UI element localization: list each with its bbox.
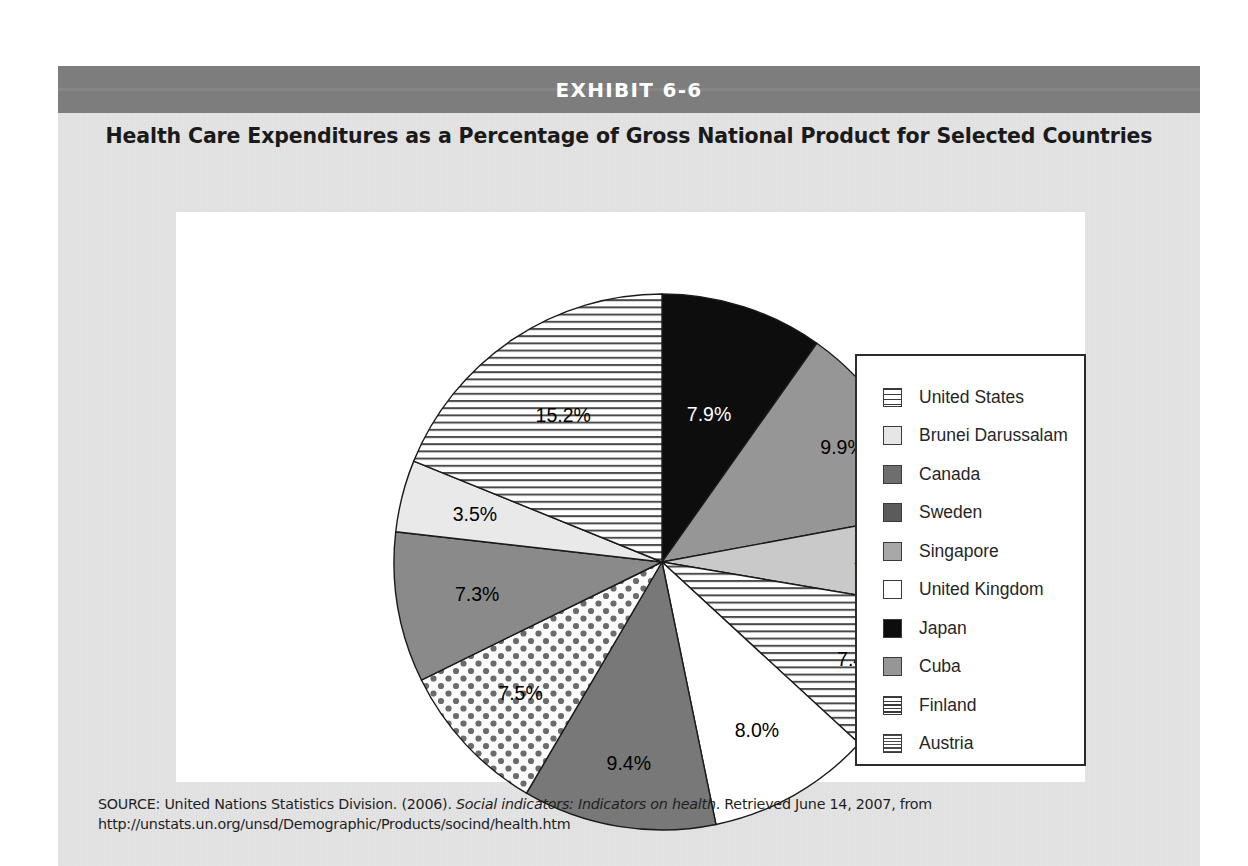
legend-item[interactable]: Cuba [883, 648, 1088, 687]
pie-slice-value-label: 15.2% [536, 404, 591, 426]
legend-item[interactable]: Singapore [883, 532, 1088, 571]
legend-label: Austria [919, 733, 973, 754]
pie-chart: 7.9%9.9%4.5%7.4%8.0%9.4%7.5%7.3%3.5%15.2… [392, 292, 932, 832]
legend-item[interactable]: Austria [883, 725, 1088, 764]
legend-item[interactable]: Brunei Darussalam [883, 417, 1088, 456]
legend-item-list: United StatesBrunei DarussalamCanadaSwed… [883, 378, 1088, 763]
source-italic-title: Social indicators: Indicators on health [456, 796, 716, 812]
source-note: SOURCE: United Nations Statistics Divisi… [98, 794, 1168, 835]
legend-swatch-icon [883, 542, 902, 561]
pie-slice-value-label: 7.5% [498, 682, 542, 704]
chart-legend: United StatesBrunei DarussalamCanadaSwed… [855, 354, 1086, 766]
legend-item[interactable]: United Kingdom [883, 571, 1088, 610]
exhibit-page: EXHIBIT 6-6 Health Care Expenditures as … [58, 66, 1200, 866]
legend-label: Singapore [919, 541, 999, 562]
legend-swatch-icon [883, 503, 902, 522]
pie-slice-value-label: 9.4% [607, 752, 651, 774]
pie-slice-group [394, 294, 930, 830]
legend-label: Cuba [919, 656, 961, 677]
legend-label: Finland [919, 695, 976, 716]
pie-slice-value-label: 7.3% [455, 583, 499, 605]
legend-swatch-icon [883, 580, 902, 599]
legend-swatch-icon [883, 734, 902, 753]
legend-item[interactable]: Canada [883, 455, 1088, 494]
exhibit-number-label: EXHIBIT 6-6 [556, 78, 703, 102]
legend-swatch-icon [883, 388, 902, 407]
chart-plot-panel: 7.9%9.9%4.5%7.4%8.0%9.4%7.5%7.3%3.5%15.2… [176, 212, 1085, 782]
chart-title: Health Care Expenditures as a Percentage… [58, 124, 1200, 148]
legend-swatch-icon [883, 696, 902, 715]
legend-swatch-icon [883, 426, 902, 445]
pie-slice-value-label: 8.0% [735, 719, 779, 741]
pie-slice-value-label: 3.5% [453, 503, 497, 525]
legend-swatch-icon [883, 657, 902, 676]
legend-label: Canada [919, 464, 980, 485]
legend-item[interactable]: Japan [883, 609, 1088, 648]
legend-label: Sweden [919, 502, 982, 523]
legend-label: United Kingdom [919, 579, 1044, 600]
legend-label: Japan [919, 618, 967, 639]
legend-item[interactable]: United States [883, 378, 1088, 417]
legend-label: Brunei Darussalam [919, 425, 1068, 446]
legend-swatch-icon [883, 465, 902, 484]
exhibit-header-band: EXHIBIT 6-6 [58, 66, 1200, 113]
legend-label: United States [919, 387, 1024, 408]
source-prefix: SOURCE: United Nations Statistics Divisi… [98, 796, 456, 812]
legend-item[interactable]: Sweden [883, 494, 1088, 533]
legend-swatch-icon [883, 619, 902, 638]
legend-item[interactable]: Finland [883, 686, 1088, 725]
pie-chart-svg: 7.9%9.9%4.5%7.4%8.0%9.4%7.5%7.3%3.5%15.2… [392, 292, 932, 832]
pie-slice-value-label: 7.9% [687, 403, 731, 425]
